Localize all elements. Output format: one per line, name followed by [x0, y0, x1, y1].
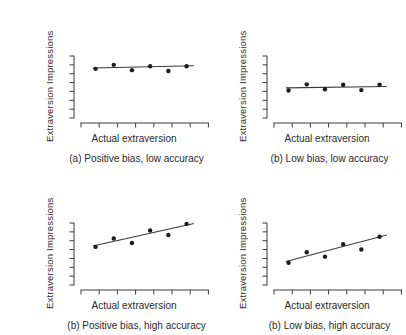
x-axis-label: Actual extraversion [247, 133, 406, 144]
panel-caption: (a) Positive bias, low accuracy [40, 153, 233, 164]
x-axis-label: Actual extraversion [54, 133, 214, 144]
data-point [93, 245, 97, 249]
data-point [286, 261, 290, 265]
data-point [305, 82, 309, 86]
x-axis-label: Actual extraversion [54, 300, 214, 311]
data-point [286, 88, 290, 92]
panel-caption: (b) Low bias, low accuracy [233, 153, 406, 164]
scatter-plot [247, 213, 406, 303]
data-point [112, 236, 116, 240]
data-point [93, 67, 97, 71]
fit-line [286, 87, 387, 88]
fit-line [93, 223, 194, 246]
data-point [305, 250, 309, 254]
fit-line [286, 235, 387, 262]
data-point [323, 87, 327, 91]
data-point [130, 241, 134, 245]
data-point [184, 222, 188, 226]
data-point [148, 64, 152, 68]
data-point [341, 83, 345, 87]
fit-line [93, 66, 194, 68]
panel-positive-bias-high-accuracy: Extraversion Impressions Actual extraver… [40, 183, 233, 335]
x-axis-label: Actual extraversion [247, 300, 406, 311]
data-point [184, 64, 188, 68]
data-point [112, 63, 116, 67]
panel-caption: (b) Low bias, high accuracy [233, 320, 406, 331]
data-point [341, 242, 345, 246]
data-point [377, 83, 381, 87]
panel-low-bias-low-accuracy: Extraversion Impressions Actual extraver… [233, 16, 406, 183]
panel-positive-bias-low-accuracy: Extraversion Impressions Actual extraver… [40, 16, 233, 183]
scatter-plot [54, 213, 214, 303]
data-point [130, 68, 134, 72]
panel-caption: (b) Positive bias, high accuracy [40, 320, 233, 331]
data-point [166, 233, 170, 237]
data-point [359, 88, 363, 92]
data-point [323, 254, 327, 258]
scatter-plot [247, 46, 406, 136]
data-point [166, 69, 170, 73]
data-point [148, 228, 152, 232]
data-point [359, 247, 363, 251]
scatter-plot [54, 46, 214, 136]
panel-low-bias-high-accuracy: Extraversion Impressions Actual extraver… [233, 183, 406, 335]
data-point [377, 235, 381, 239]
